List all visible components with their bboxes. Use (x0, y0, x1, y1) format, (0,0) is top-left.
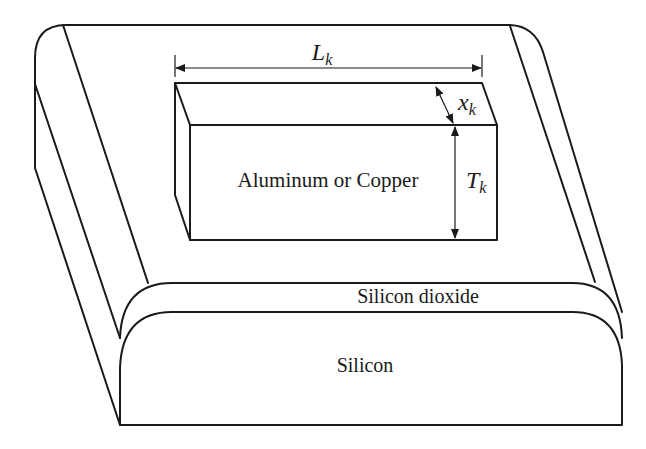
block-top-face (175, 83, 497, 125)
wafer-outline (35, 25, 622, 425)
silicon-label: Silicon (337, 354, 394, 376)
metal-label: Aluminum or Copper (238, 168, 419, 192)
length-label: Lk (311, 39, 333, 68)
oxide-label: Silicon dioxide (357, 285, 479, 307)
width-label: xk (457, 89, 477, 118)
width-arrow (436, 87, 453, 123)
wafer-right-outer-edge (543, 52, 622, 312)
interconnect-diagram: Silicon dioxide Silicon Aluminum or Copp… (0, 0, 646, 449)
silicon-layer: Silicon (120, 312, 622, 425)
wafer-left-inner-slope (63, 25, 148, 283)
wafer-right-inner-slope (510, 26, 595, 282)
wafer-left-middle-slope (35, 84, 120, 338)
wafer-left-outer-slope (35, 168, 120, 425)
thickness-label: Tk (466, 167, 487, 196)
oxide-layer: Silicon dioxide (120, 283, 622, 338)
metal-block: Aluminum or Copper (175, 83, 497, 240)
thickness-dimension: Tk (455, 127, 487, 238)
length-dimension: Lk (175, 39, 482, 77)
width-dimension: xk (436, 87, 477, 123)
